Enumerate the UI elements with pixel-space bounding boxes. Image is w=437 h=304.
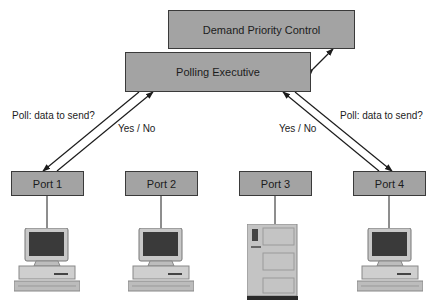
port-label: Port 2	[147, 178, 176, 190]
port-label: Port 1	[33, 178, 62, 190]
desktop-computer-icon	[357, 228, 423, 294]
port-1-box: Port 1	[11, 171, 84, 196]
server-icon	[247, 224, 299, 300]
right-reply-label: Yes / No	[279, 123, 316, 134]
box-label: Demand Priority Control	[203, 24, 320, 36]
port-label: Port 4	[375, 178, 404, 190]
left-reply-label: Yes / No	[118, 123, 155, 134]
port-label: Port 3	[261, 178, 290, 190]
polling-executive-box: Polling Executive	[125, 52, 311, 92]
demand-priority-control-box: Demand Priority Control	[168, 10, 355, 49]
desktop-computer-icon	[128, 228, 194, 294]
box-label: Polling Executive	[176, 66, 260, 78]
port-3-box: Port 3	[239, 171, 312, 196]
left-poll-label: Poll: data to send?	[12, 110, 95, 121]
port-2-box: Port 2	[125, 171, 198, 196]
control-exec-arrow	[313, 49, 333, 69]
right-poll-label: Poll: data to send?	[340, 110, 423, 121]
port-4-box: Port 4	[353, 171, 426, 196]
desktop-computer-icon	[14, 228, 80, 294]
